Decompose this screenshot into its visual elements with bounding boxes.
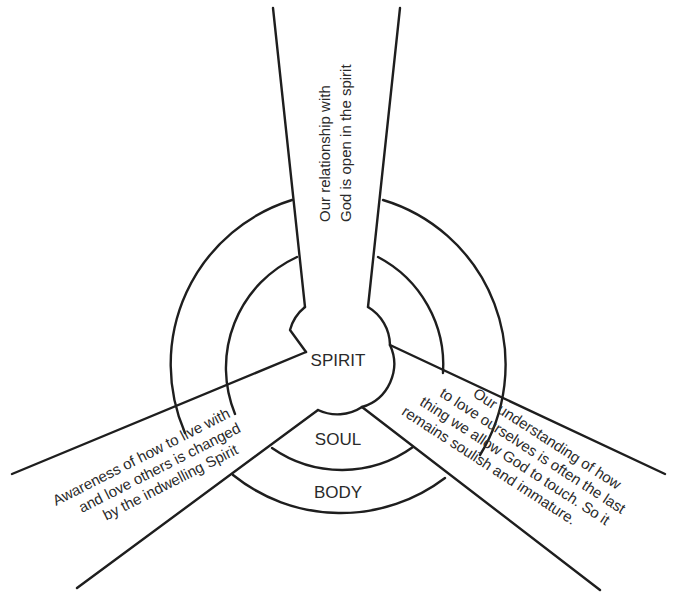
right-beam: Our understanding of how to love ourselv… [362,345,665,590]
body-label: BODY [314,483,362,502]
left-beam-caption: Awareness of how to live with and love o… [50,401,255,541]
right-beam-caption: Our understanding of how to love ourselv… [399,357,642,549]
top-beam-line-2: God is open in the spirit [337,64,354,222]
soul-label: SOUL [315,430,361,449]
top-beam-line-1: Our relationship with [316,85,333,222]
left-beam: Awareness of how to live with and love o… [12,352,318,588]
top-beam: Our relationship with God is open in the… [273,8,400,307]
top-beam-caption: Our relationship with God is open in the… [316,64,354,222]
spirit-soul-body-diagram: Our relationship with God is open in the… [0,0,673,613]
spirit-label: SPIRIT [311,351,366,370]
